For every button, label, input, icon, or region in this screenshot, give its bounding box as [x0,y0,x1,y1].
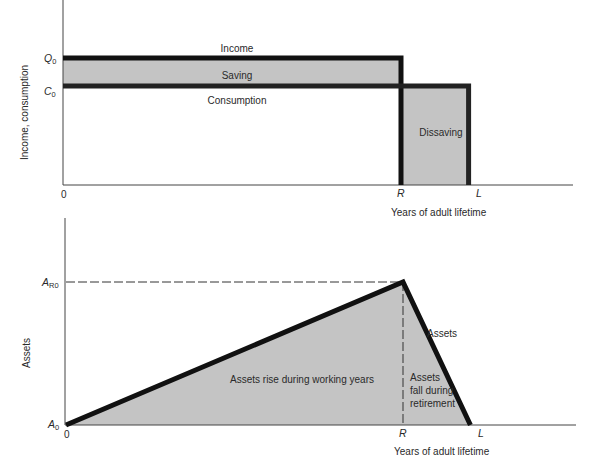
assets-fall-annotation-2: fall during [410,385,453,396]
assets-rise-annotation: Assets rise during working years [230,374,374,385]
bottom-x-axis-title: Years of adult lifetime [394,446,490,457]
consumption-annotation: Consumption [208,95,267,106]
top-x-axis-title: Years of adult lifetime [391,207,487,218]
bottom-r-tick-label: R [399,427,407,439]
top-origin-label: 0 [61,189,67,200]
assets-curve-annotation: Assets [427,328,457,339]
assets-fall-annotation-3: retirement [410,398,455,409]
assets-fall-annotation-1: Assets [410,372,440,383]
top-l-tick-label: L [476,187,482,199]
bottom-l-tick-label: L [478,427,484,439]
bottom-chart: AR0 A0 0 R L Assets Years of adult lifet… [21,218,576,457]
dissaving-annotation: Dissaving [419,127,462,138]
top-r-tick-label: R [397,187,405,199]
a0-tick-label: A0 [47,418,59,432]
c0-tick-label: C0 [44,85,56,99]
ar0-tick-label: AR0 [41,276,59,290]
life-cycle-diagram: Q0 C0 0 R L Income, consumption Years of… [0,0,594,470]
top-chart: Q0 C0 0 R L Income, consumption Years of… [19,0,573,218]
bottom-origin-label: 0 [64,429,70,440]
income-annotation: Income [221,43,254,54]
bottom-y-axis-title: Assets [21,338,32,368]
saving-annotation: Saving [222,70,253,81]
q0-tick-label: Q0 [44,52,56,66]
top-y-axis-title: Income, consumption [19,65,30,160]
